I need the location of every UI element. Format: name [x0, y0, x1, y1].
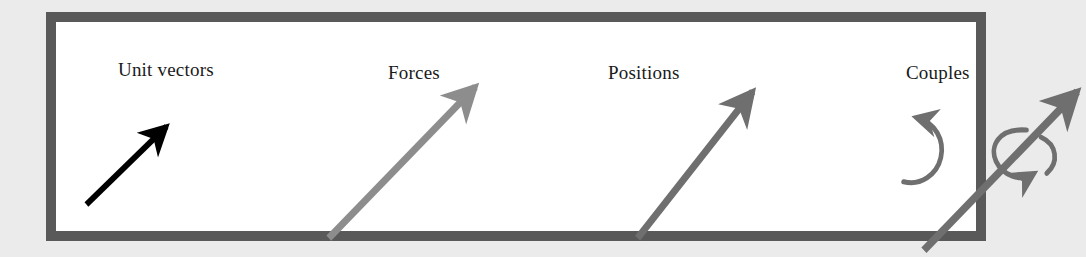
- unit-vector-arrow-icon: [86, 126, 166, 204]
- force-vector-arrow-icon: [329, 87, 476, 238]
- vector-artwork: [56, 22, 1086, 257]
- couple-circular-arrow-icon: [904, 118, 942, 183]
- couple-twist-arrow-icon: [994, 130, 1055, 178]
- figure-frame: Unit vectors Forces Positions Couples: [46, 12, 986, 241]
- figure-panel: Unit vectors Forces Positions Couples: [56, 22, 976, 231]
- couple-vector-arrow-icon: [924, 92, 1077, 251]
- panel-label-positions: Positions: [608, 63, 680, 82]
- panel-label-unit-vectors: Unit vectors: [118, 60, 214, 79]
- panel-label-forces: Forces: [388, 63, 440, 82]
- position-vector-arrow-icon: [638, 92, 753, 239]
- panel-label-couples: Couples: [906, 63, 970, 82]
